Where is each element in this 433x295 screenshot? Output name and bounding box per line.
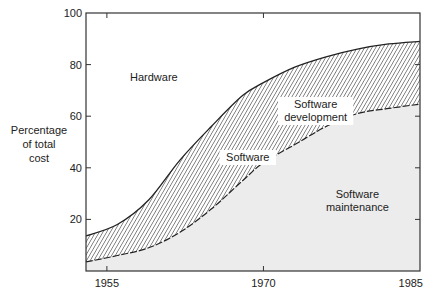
x-tick-label: 1970 <box>251 277 275 289</box>
svg-text:Hardware: Hardware <box>130 71 178 83</box>
annotation-software: Software <box>220 150 276 165</box>
svg-text:maintenance: maintenance <box>326 201 389 213</box>
y-tick-label: 80 <box>70 59 82 71</box>
y-tick-label: 20 <box>70 213 82 225</box>
y-axis-label: Percentageof totalcost <box>11 124 67 164</box>
annotation-software-development: Softwaredevelopment <box>278 97 353 125</box>
annotation-software-maintenance: Softwaremaintenance <box>320 187 395 215</box>
y-axis-label-line: cost <box>29 152 49 164</box>
y-tick-label: 100 <box>64 7 82 19</box>
y-tick-label: 60 <box>70 110 82 122</box>
svg-text:Software: Software <box>294 98 337 110</box>
svg-text:development: development <box>284 111 347 123</box>
annotation-hardware: Hardware <box>130 71 178 83</box>
y-tick-label: 40 <box>70 162 82 174</box>
y-axis-label-line: of total <box>22 138 55 150</box>
x-tick-label: 1955 <box>95 277 119 289</box>
chart-svg: 20406080100195519701985 HardwareSoftware… <box>0 0 433 295</box>
svg-text:Software: Software <box>226 151 269 163</box>
x-tick-label: 1985 <box>399 277 423 289</box>
svg-text:Software: Software <box>336 188 379 200</box>
y-axis-label-line: Percentage <box>11 124 67 136</box>
cost-chart: 20406080100195519701985 HardwareSoftware… <box>0 0 433 295</box>
plot-area <box>86 13 420 271</box>
